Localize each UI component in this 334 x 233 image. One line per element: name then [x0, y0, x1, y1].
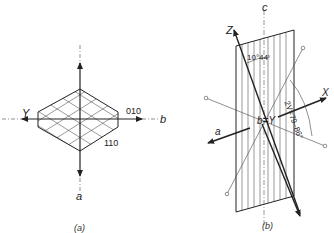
label-X: X: [322, 88, 329, 98]
label-a: a: [76, 191, 82, 202]
diagram-canvas: [0, 0, 334, 233]
face-label-010: 010: [126, 107, 141, 116]
label-b-equals-Y: b=Y: [257, 116, 275, 126]
label-a-b: a: [215, 127, 221, 137]
label-Z: Z: [226, 25, 233, 36]
label-c: c: [262, 2, 268, 13]
label-b: b: [160, 114, 166, 125]
angle-label-10-44: 10°44': [247, 54, 270, 62]
label-Y: Y: [22, 108, 29, 119]
face-label-110: 110: [104, 139, 118, 148]
caption-b: (b): [262, 222, 273, 231]
crystal-optics-figure: Y b a 010 110 (a) c Z X a b=Y 10°44' 2V=…: [0, 0, 334, 233]
caption-a: (a): [74, 224, 85, 233]
